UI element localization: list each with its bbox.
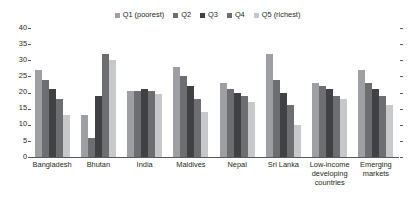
bar-group <box>122 28 168 157</box>
bar-group <box>75 28 121 157</box>
bar-group <box>307 28 353 157</box>
bar[interactable] <box>365 83 372 157</box>
bar[interactable] <box>220 83 227 157</box>
y-axis-tick-label: 25 <box>0 72 27 80</box>
bar[interactable] <box>273 80 280 157</box>
bar-group <box>353 28 399 157</box>
chart-legend: Q1 (poorest)Q2Q3Q4Q5 (richest) <box>0 11 415 19</box>
legend-item-1[interactable]: Q1 (poorest) <box>115 11 165 19</box>
bar[interactable] <box>194 99 201 157</box>
bar[interactable] <box>42 80 49 157</box>
bar[interactable] <box>88 138 95 157</box>
bar[interactable] <box>49 89 56 157</box>
bar[interactable] <box>227 89 234 157</box>
bar[interactable] <box>187 86 194 157</box>
legend-item-4[interactable]: Q4 <box>227 11 245 19</box>
bar[interactable] <box>294 125 301 157</box>
x-axis-category-label-line: markets <box>347 169 405 178</box>
legend-swatch-icon <box>173 13 178 18</box>
y-axis-tick-mark-right <box>400 60 403 61</box>
y-axis-tick-label: 30 <box>0 56 27 64</box>
bar[interactable] <box>141 89 148 157</box>
bar[interactable] <box>241 96 248 157</box>
bar[interactable] <box>109 60 116 157</box>
legend-swatch-icon <box>254 13 259 18</box>
bar[interactable] <box>155 94 162 157</box>
bar[interactable] <box>35 70 42 157</box>
y-axis-tick-mark-right <box>400 141 403 142</box>
y-axis-tick-label: 10 <box>0 120 27 128</box>
y-axis-tick-mark-right <box>400 93 403 94</box>
bar[interactable] <box>173 67 180 157</box>
bar[interactable] <box>102 54 109 157</box>
bar-group <box>168 28 214 157</box>
bar-group <box>214 28 260 157</box>
y-axis-tick-label: 15 <box>0 104 27 112</box>
y-axis-tick-label: 5 <box>0 137 27 145</box>
legend-label: Q4 <box>235 11 245 19</box>
bar[interactable] <box>319 86 326 157</box>
legend-item-5[interactable]: Q5 (richest) <box>254 11 301 19</box>
x-axis-category-label: Emergingmarkets <box>347 160 405 178</box>
legend-label: Q3 <box>208 11 218 19</box>
legend-label: Q2 <box>181 11 191 19</box>
bar[interactable] <box>379 96 386 157</box>
bar[interactable] <box>234 93 241 158</box>
bar[interactable] <box>280 93 287 158</box>
bar-group <box>29 28 75 157</box>
bar-group <box>260 28 306 157</box>
bar[interactable] <box>81 115 88 157</box>
legend-label: Q1 (poorest) <box>123 11 165 19</box>
legend-swatch-icon <box>115 13 120 18</box>
x-axis-labels: BangladeshBhutanIndiaMaldivesNepalSri La… <box>29 160 399 206</box>
bar[interactable] <box>358 70 365 157</box>
y-axis-tick-mark-right <box>400 109 403 110</box>
bar[interactable] <box>148 91 155 157</box>
legend-label: Q5 (richest) <box>262 11 301 19</box>
y-axis-tick-label: 35 <box>0 40 27 48</box>
y-axis-tick-mark-right <box>400 157 403 158</box>
x-axis-category-label-line: countries <box>301 178 359 187</box>
bar[interactable] <box>248 102 255 157</box>
legend-item-2[interactable]: Q2 <box>173 11 191 19</box>
bar[interactable] <box>95 96 102 157</box>
bar[interactable] <box>312 83 319 157</box>
bar[interactable] <box>372 89 379 157</box>
y-axis-tick-mark-right <box>400 28 403 29</box>
bar[interactable] <box>127 91 134 157</box>
bar[interactable] <box>56 99 63 157</box>
bar[interactable] <box>386 105 393 157</box>
y-axis-tick-mark-right <box>400 125 403 126</box>
x-axis-baseline <box>29 157 399 158</box>
bar-chart: Q1 (poorest)Q2Q3Q4Q5 (richest) 051015202… <box>0 0 415 209</box>
legend-swatch-icon <box>200 13 205 18</box>
bar[interactable] <box>333 96 340 157</box>
bar[interactable] <box>180 76 187 157</box>
bar[interactable] <box>326 89 333 157</box>
bar[interactable] <box>63 115 70 157</box>
y-axis-tick-mark-right <box>400 44 403 45</box>
plot-area <box>29 28 399 157</box>
y-axis-tick-label: 40 <box>0 24 27 32</box>
bar[interactable] <box>266 54 273 157</box>
x-axis-category-label-line: Emerging <box>347 160 405 169</box>
y-axis-tick-label: 20 <box>0 88 27 96</box>
y-axis-tick-mark-right <box>400 76 403 77</box>
bar[interactable] <box>134 91 141 157</box>
legend-item-3[interactable]: Q3 <box>200 11 218 19</box>
bar[interactable] <box>287 105 294 157</box>
bar[interactable] <box>201 112 208 157</box>
bar[interactable] <box>340 99 347 157</box>
legend-swatch-icon <box>227 13 232 18</box>
